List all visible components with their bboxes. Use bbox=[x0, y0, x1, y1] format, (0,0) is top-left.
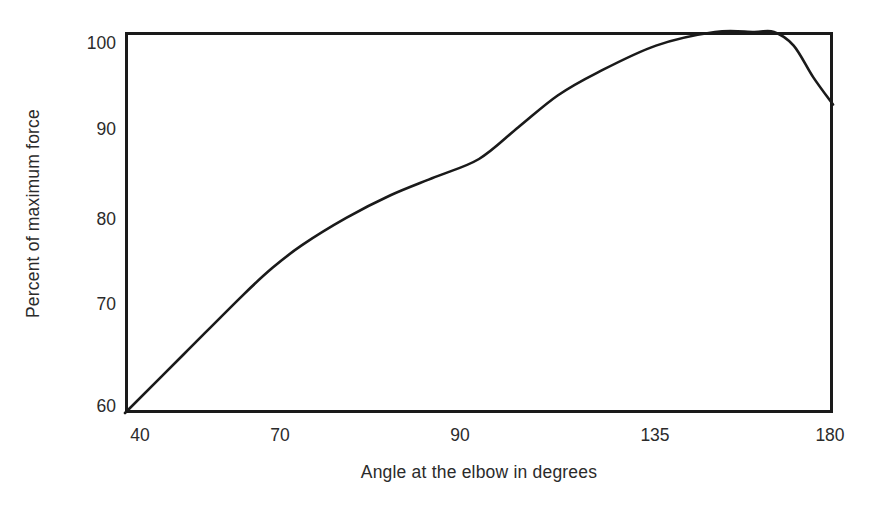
x-tick-label: 180 bbox=[800, 425, 860, 446]
x-tick-label: 90 bbox=[430, 425, 490, 446]
x-tick-label: 40 bbox=[110, 425, 170, 446]
data-curve-elbow-force bbox=[125, 31, 833, 413]
y-tick-label: 60 bbox=[70, 396, 116, 417]
y-tick-label: 80 bbox=[70, 209, 116, 230]
x-tick-label: 135 bbox=[625, 425, 685, 446]
y-tick-label: 100 bbox=[70, 33, 116, 54]
y-tick-label: 70 bbox=[70, 294, 116, 315]
y-axis-title: Percent of maximum force bbox=[18, 23, 48, 404]
plot-frame bbox=[127, 34, 832, 412]
chart-figure: Percent of maximum force 10090807060 407… bbox=[0, 0, 885, 514]
x-axis-tick-labels: 407090135180 bbox=[0, 425, 885, 451]
plot-area bbox=[125, 32, 833, 413]
plot-svg bbox=[125, 32, 833, 413]
y-tick-label: 90 bbox=[70, 119, 116, 140]
x-axis-title: Angle at the elbow in degrees bbox=[125, 462, 833, 483]
x-tick-label: 70 bbox=[250, 425, 310, 446]
